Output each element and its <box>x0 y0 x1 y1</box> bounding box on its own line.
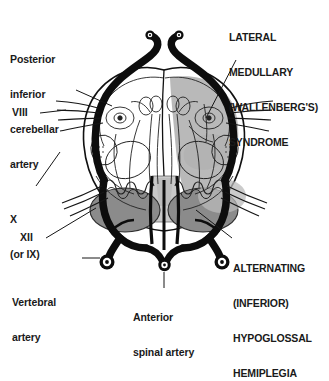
label-pica-line-1: Posterior <box>10 54 59 66</box>
label-cn8: VIII <box>12 107 28 119</box>
label-pica-line-4: artery <box>10 159 59 171</box>
label-pica-line-2: inferior <box>10 89 59 101</box>
label-anterior-spinal-line-1: Anterior <box>133 312 194 324</box>
label-hypoglossal-hemiplegia: ALTERNATING (INFERIOR) HYPOGLOSSAL HEMIP… <box>233 239 312 381</box>
label-anterior-spinal-line-2: spinal artery <box>133 347 194 359</box>
label-hypoglossal-line-3: HYPOGLOSSAL <box>233 333 312 345</box>
anterior-spinal-artery <box>146 176 183 271</box>
label-cn10-line-1: X <box>10 214 40 226</box>
label-cn12: XII <box>20 232 33 244</box>
label-wallenberg-line-4: SYNDROME <box>229 137 318 149</box>
label-hypoglossal-line-1: ALTERNATING <box>233 263 312 275</box>
label-hypoglossal-line-2: (INFERIOR) <box>233 298 312 310</box>
label-wallenberg-line-1: LATERAL <box>229 32 318 44</box>
label-pica-line-3: cerebellar <box>10 124 59 136</box>
label-vertebral-artery: Vertebral artery <box>12 273 56 367</box>
label-wallenberg-line-2: MEDULLARY <box>229 67 318 79</box>
label-wallenberg-line-3: (WALLENBERG'S) <box>229 102 318 114</box>
label-wallenberg-syndrome: LATERAL MEDULLARY (WALLENBERG'S) SYNDROM… <box>229 8 318 173</box>
label-vertebral-line-1: Vertebral <box>12 297 56 309</box>
label-cn10-line-2: (or IX) <box>10 249 40 261</box>
label-vertebral-line-2: artery <box>12 332 56 344</box>
label-hypoglossal-line-4: HEMIPLEGIA <box>233 368 312 380</box>
label-anterior-spinal-artery: Anterior spinal artery <box>133 288 194 381</box>
